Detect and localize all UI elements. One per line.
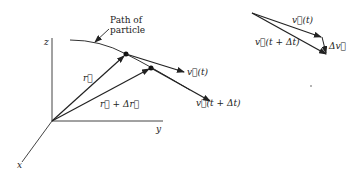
y-axis-label: y bbox=[155, 124, 162, 134]
x-axis-label: x bbox=[17, 160, 22, 170]
path-label-line2: particle bbox=[110, 25, 145, 35]
label-r-plus-dr: r⃗ + Δr⃗ bbox=[100, 99, 139, 109]
triangle-v-t-dt bbox=[252, 13, 326, 54]
path-label-pointer bbox=[95, 29, 109, 42]
path-label-line1: Path of bbox=[110, 15, 143, 25]
label-r: r⃗ bbox=[83, 73, 93, 83]
label-v-t: v⃗(t) bbox=[187, 67, 209, 77]
velocity-diagram: z y x Path of particle r⃗ r⃗ + Δr⃗ v⃗(t)… bbox=[0, 0, 354, 173]
triangle-label-v-t-dt: v⃗(t + Δt) bbox=[255, 37, 300, 47]
stray-dot bbox=[310, 85, 312, 87]
triangle-delta-v bbox=[322, 37, 326, 53]
triangle-label-delta-v: Δv⃗ bbox=[328, 41, 346, 51]
label-v-t-dt: v⃗(t + Δt) bbox=[196, 98, 241, 108]
coordinate-axes bbox=[22, 38, 163, 162]
z-axis-label: z bbox=[43, 37, 49, 47]
velocity-triangle bbox=[252, 13, 326, 54]
triangle-label-v-t: v⃗(t) bbox=[292, 15, 314, 25]
x-axis bbox=[22, 121, 52, 162]
